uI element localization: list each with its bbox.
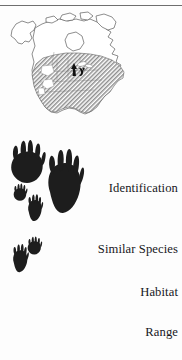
front-track-large — [11, 140, 45, 183]
field-guide-page: Identification Similar Species Habitat R… — [0, 0, 182, 360]
section-link-habitat[interactable]: Habitat — [60, 286, 178, 299]
section-link-identification[interactable]: Identification — [60, 182, 178, 195]
section-link-range[interactable]: Range — [60, 326, 178, 339]
range-map — [2, 8, 138, 136]
section-link-similar-species[interactable]: Similar Species — [60, 243, 178, 256]
front-track-small-upper — [14, 184, 28, 201]
hind-track-small-lower — [13, 244, 29, 272]
front-track-small-lower — [28, 236, 42, 254]
hind-track-small-upper — [28, 194, 43, 221]
section-label-list: Identification Similar Species Habitat R… — [60, 178, 178, 338]
header-divider — [0, 5, 182, 6]
